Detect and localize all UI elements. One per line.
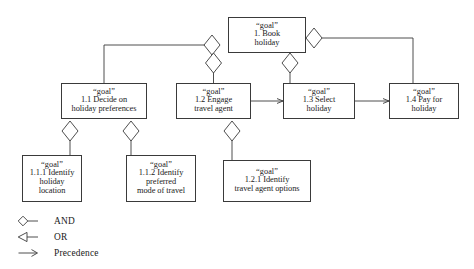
legend-label-and: AND xyxy=(50,216,75,226)
and-diamond-icon xyxy=(62,121,78,141)
node-g13[interactable]: “goal” 1.3 Select holiday xyxy=(283,83,355,119)
node-g12[interactable]: “goal” 1.2 Engage travel agent xyxy=(176,83,251,119)
node-g14[interactable]: “goal” 1.4 Pay for holiday xyxy=(389,83,459,119)
node-name-label: 1. Book holiday xyxy=(254,30,280,48)
node-name-label: 1.1.2 Identify preferred mode of travel xyxy=(137,169,185,196)
and-diamond-icon xyxy=(123,121,139,141)
node-g11[interactable]: “goal” 1.1 Decide on holiday preferences xyxy=(61,83,147,119)
goal-decomposition-diagram: “goal” 1. Book holiday “goal” 1.1 Decide… xyxy=(0,0,474,269)
edge-g1-to-g11 xyxy=(104,45,212,83)
edge-g1-to-g14 xyxy=(322,38,413,83)
node-g112[interactable]: “goal” 1.1.2 Identify preferred mode of … xyxy=(126,155,196,202)
node-name-label: 1.3 Select holiday xyxy=(303,96,336,114)
node-name-label: 1.2 Engage travel agent xyxy=(194,96,233,114)
node-g121[interactable]: “goal” 1.2.1 Identify travel agent optio… xyxy=(223,160,311,202)
legend-item-or: OR xyxy=(16,229,216,245)
node-name-label: 1.2.1 Identify travel agent options xyxy=(234,176,299,194)
and-diamond-icon xyxy=(204,35,220,55)
and-diamond-icon xyxy=(306,28,322,48)
or-triangle-icon xyxy=(16,230,50,244)
and-diamond-icon xyxy=(16,214,50,228)
and-diamond-icon xyxy=(206,53,222,73)
node-g111[interactable]: “goal” 1.1.1 Identify holiday location xyxy=(22,155,82,202)
legend-label-precedence: Precedence xyxy=(50,248,99,258)
legend-item-precedence: Precedence xyxy=(16,245,216,261)
legend-item-and: AND xyxy=(16,213,216,229)
node-g1[interactable]: “goal” 1. Book holiday xyxy=(228,17,306,53)
node-name-label: 1.1 Decide on holiday preferences xyxy=(72,96,137,114)
node-name-label: 1.1.1 Identify holiday location xyxy=(30,169,75,196)
legend: AND OR Precedence xyxy=(16,213,216,261)
precedence-arrow-icon xyxy=(16,246,50,260)
legend-label-or: OR xyxy=(50,232,67,242)
and-diamond-icon xyxy=(224,121,240,141)
node-name-label: 1.4 Pay for holiday xyxy=(406,96,442,114)
and-diamond-icon xyxy=(282,53,298,73)
